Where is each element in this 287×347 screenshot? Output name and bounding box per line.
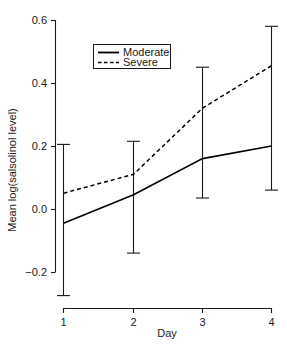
legend-label-severe: Severe	[123, 56, 158, 68]
x-tick-label-1: 2	[130, 316, 136, 328]
legend: Moderate Severe	[94, 45, 171, 69]
error-bar-day-3	[196, 67, 209, 198]
y-tick-label-1: 0.4	[32, 77, 47, 89]
x-axis: 1 2 3 4 Day	[60, 309, 274, 340]
y-tick-label-2: 0.2	[32, 140, 47, 152]
error-bars	[57, 26, 278, 295]
error-bar-day-4	[265, 26, 278, 190]
y-axis: 0.6 0.4 0.2 0.0 −0.2 Mean log(salsolinol…	[6, 14, 56, 278]
x-tick-label-2: 3	[199, 316, 205, 328]
y-axis-title: Mean log(salsolinol level)	[6, 108, 18, 232]
y-tick-label-0: 0.6	[32, 14, 47, 26]
line-chart: 0.6 0.4 0.2 0.0 −0.2 Mean log(salsolinol…	[0, 0, 287, 347]
chart-figure: 0.6 0.4 0.2 0.0 −0.2 Mean log(salsolinol…	[0, 0, 287, 347]
x-tick-label-0: 1	[60, 316, 66, 328]
y-tick-label-3: 0.0	[32, 203, 47, 215]
series-line-severe	[64, 66, 272, 194]
x-axis-title: Day	[157, 327, 177, 339]
y-tick-label-4: −0.2	[25, 266, 47, 278]
x-tick-label-3: 4	[268, 316, 274, 328]
error-bar-day-1	[57, 144, 70, 295]
series-line-moderate	[64, 146, 272, 223]
